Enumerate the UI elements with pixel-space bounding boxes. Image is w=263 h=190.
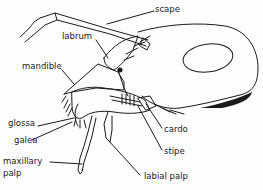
leader-labrum [96,40,108,58]
label-galea: galea [14,136,37,145]
label-labrum: labrum [62,32,92,41]
labrum [104,36,138,70]
mouthparts [72,87,150,118]
label-cardo: cardo [164,125,188,134]
leader-mandible [62,70,74,84]
glossa [75,104,78,126]
head-shading [200,92,252,108]
label-mandible: mandible [22,62,62,71]
leader-scape [107,11,154,24]
compound-eye-outline [181,41,234,76]
label-glossa: glossa [8,119,35,128]
label-maxillary-palp-line1: maxillary [3,157,42,166]
leader-glossa [38,118,74,126]
labial-palp [104,112,112,142]
label-scape: scape [155,5,180,14]
leader-galea [32,122,72,140]
leader-maxillary-palp [50,162,82,164]
label-labial-palp: labial palp [144,172,188,181]
diagram-canvas: scape labrum mandible glossa galea maxil… [0,0,263,190]
label-maxillary-palp-line2: palp [3,169,21,178]
leader-stipe [138,106,162,150]
leader-labial-palp [108,140,140,175]
antenna [20,13,57,42]
maxillary-palp [78,116,96,174]
head-capsule [138,24,258,108]
label-stipe: stipe [164,147,185,156]
